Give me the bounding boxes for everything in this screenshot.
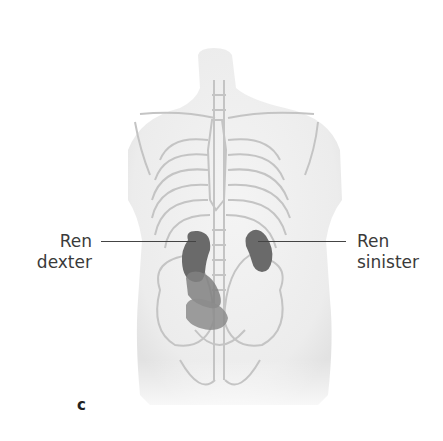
leader-line-ren-dexter	[101, 241, 196, 242]
anatomy-figure: Ren dexter Ren sinister c	[0, 0, 443, 441]
label-ren-dexter: Ren dexter	[20, 231, 92, 273]
label-ren-sinister: Ren sinister	[357, 231, 437, 273]
label-ren-dexter-line1: Ren	[20, 231, 92, 252]
leader-line-ren-sinister	[258, 241, 346, 242]
torso-illustration	[0, 0, 443, 441]
label-ren-sinister-line2: sinister	[357, 252, 437, 273]
panel-letter: c	[77, 396, 86, 414]
label-ren-dexter-line2: dexter	[20, 252, 92, 273]
label-ren-sinister-line1: Ren	[357, 231, 437, 252]
